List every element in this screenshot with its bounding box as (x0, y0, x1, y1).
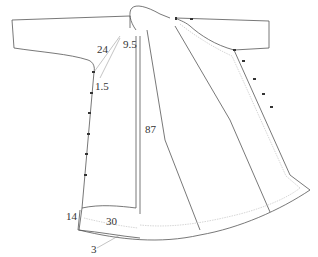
dimension-pocket-width: 30 (106, 216, 117, 227)
left-sleeve (12, 16, 130, 72)
right-shoulder (176, 18, 269, 50)
hem-leader (97, 235, 120, 248)
dimension-pocket-height: 14 (66, 211, 77, 222)
collar (130, 6, 170, 30)
dimension-slit-offset: 1.5 (95, 81, 109, 92)
center-panel-line-2 (175, 26, 270, 212)
dimension-neck-width: 9.5 (123, 39, 137, 50)
seam-allowance-hem (140, 188, 300, 226)
right-front-edge (234, 50, 310, 190)
dimension-slit-length: 24 (97, 44, 108, 55)
buttons (84, 17, 273, 176)
left-inner-panel (82, 36, 136, 208)
dimension-front-length: 87 (145, 124, 156, 135)
pattern-drawing (0, 0, 318, 257)
seam-allowance-right (180, 24, 300, 188)
dimension-hem-allowance: 3 (91, 244, 97, 255)
